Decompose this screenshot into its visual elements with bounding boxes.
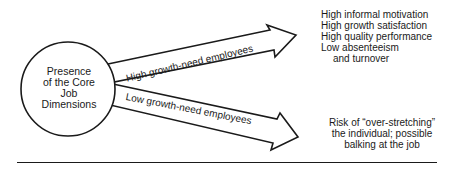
source-node-label: Presence of the Core Job Dimensions	[24, 66, 114, 110]
high-growth-outcomes: High informal motivation High growth sat…	[321, 9, 432, 64]
outcome-line: Low absenteeism	[321, 42, 432, 53]
outcome-line: Risk of “over-stretching”	[325, 117, 439, 128]
low-growth-outcomes: Risk of “over-stretching” the individual…	[325, 117, 439, 150]
source-label-line: Dimensions	[24, 99, 114, 110]
outcome-line: and turnover	[321, 53, 432, 64]
outcome-line: the individual; possible	[325, 128, 439, 139]
outcome-line: High quality performance	[321, 31, 432, 42]
outcome-line: High growth satisfaction	[321, 20, 432, 31]
outcome-line: High informal motivation	[321, 9, 432, 20]
horizontal-divider	[17, 162, 437, 163]
outcome-line: balking at the job	[325, 139, 439, 150]
